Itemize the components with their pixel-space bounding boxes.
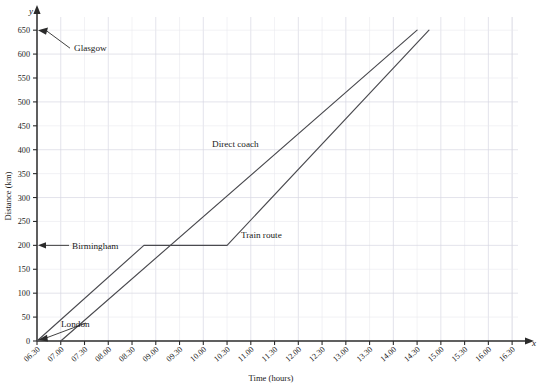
x-tick-label: 10.00 (188, 345, 208, 364)
x-tick-label: 13.00 (331, 345, 351, 364)
x-tick-label: 12.30 (307, 345, 327, 364)
distance-time-chart: 050100150200250300350400450500550600650 … (0, 0, 546, 388)
x-tick-label: 11.00 (236, 345, 255, 364)
y-tick-label: 350 (18, 170, 30, 179)
y-tick-label: 400 (18, 146, 30, 155)
train-route-label: Train route (241, 230, 282, 240)
x-tick-label: 08.00 (93, 345, 113, 364)
y-axis-letter: y (28, 6, 33, 16)
x-tick-label: 09.00 (141, 345, 161, 364)
chart-canvas: 050100150200250300350400450500550600650 … (0, 0, 546, 388)
glasgow-leader (47, 31, 70, 48)
annotations-layer: GlasgowBirminghamLondonDirect coachTrain… (38, 28, 282, 342)
y-tick-label: 100 (18, 289, 30, 298)
x-tick-label: 16.00 (473, 345, 493, 364)
x-tick-label: 08.30 (117, 345, 137, 364)
glasgow-label: Glasgow (74, 43, 107, 53)
series-layer (37, 30, 429, 341)
y-axis-title: Distance (km) (3, 171, 13, 220)
x-tick-label: 14.30 (402, 345, 422, 364)
x-tick-label: 07.30 (70, 345, 90, 364)
y-tick-label: 150 (18, 265, 30, 274)
series-line-direct-coach (61, 30, 417, 341)
x-tick-label: 16.30 (497, 345, 517, 364)
y-tick-label: 600 (18, 50, 30, 59)
london-label: London (61, 319, 90, 329)
y-tick-label: 200 (18, 241, 30, 250)
x-tick-label: 15.30 (450, 345, 470, 364)
y-tick-label: 650 (18, 26, 30, 35)
glasgow-arrowhead (38, 28, 48, 35)
x-tick-label: 06.30 (22, 345, 42, 364)
x-tick-label: 12.00 (283, 345, 303, 364)
tick-marks-layer (33, 30, 512, 345)
y-tick-label: 50 (22, 313, 30, 322)
y-tick-label: 250 (18, 217, 30, 226)
x-axis-title: Time (hours) (249, 373, 294, 383)
y-tick-label: 550 (18, 74, 30, 83)
x-tick-label: 10.30 (212, 345, 232, 364)
x-tick-label: 11.30 (260, 345, 279, 364)
x-tick-labels: 06.3007.0007.3008.0008.3009.0009.3010.00… (22, 345, 517, 364)
birmingham-arrowhead (38, 242, 46, 248)
y-tick-label: 0 (26, 337, 30, 346)
x-tick-label: 13.30 (355, 345, 375, 364)
x-tick-label: 07.00 (46, 345, 66, 364)
x-tick-label: 15.00 (426, 345, 446, 364)
x-tick-label: 09.30 (165, 345, 185, 364)
series-line-train-route (37, 30, 429, 341)
x-axis-letter: x (531, 338, 536, 348)
y-tick-label: 300 (18, 194, 30, 203)
grid-layer (37, 17, 518, 341)
direct-coach-label: Direct coach (212, 139, 259, 149)
y-tick-label: 450 (18, 122, 30, 131)
x-tick-label: 14.00 (378, 345, 398, 364)
y-tick-labels: 050100150200250300350400450500550600650 (18, 26, 30, 346)
birmingham-label: Birmingham (72, 241, 118, 251)
y-tick-label: 500 (18, 98, 30, 107)
